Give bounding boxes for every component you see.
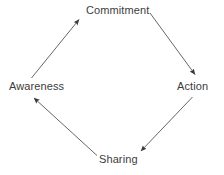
node-label-commitment: Commitment [86,4,149,16]
edge-action-to-sharing [141,97,193,151]
cycle-diagram: Commitment Action Sharing Awareness [0,0,224,175]
edge-sharing-to-awareness [34,98,97,156]
edge-awareness-to-commitment [32,20,80,79]
node-label-sharing: Sharing [99,153,138,165]
node-label-awareness: Awareness [9,80,64,92]
edge-commitment-to-action [150,13,195,75]
node-label-action: Action [177,80,208,92]
